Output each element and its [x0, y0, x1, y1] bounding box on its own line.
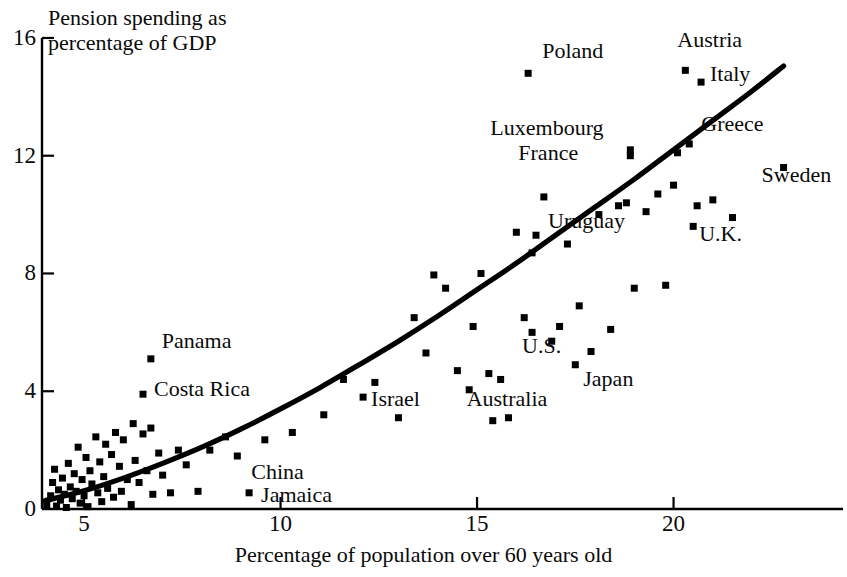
- y-tick-label: 8: [0, 261, 36, 284]
- data-point: [505, 414, 512, 421]
- data-point: [395, 414, 402, 421]
- data-point: [102, 441, 109, 448]
- data-point-labeled: [572, 361, 579, 368]
- data-point: [79, 476, 86, 483]
- data-point-labeled: [525, 70, 532, 77]
- y-tick-label: 0: [0, 497, 36, 520]
- data-point-labeled: [627, 152, 634, 159]
- data-point: [489, 417, 496, 424]
- data-point: [513, 229, 520, 236]
- y-axis-title-line-1: Pension spending as: [48, 6, 226, 31]
- data-point: [485, 370, 492, 377]
- data-point: [94, 489, 101, 496]
- data-point: [729, 214, 736, 221]
- x-tick-label: 15: [447, 512, 507, 535]
- data-point: [631, 285, 638, 292]
- point-label-u-s: U.S.: [522, 335, 561, 357]
- point-label-greece: Greece: [701, 113, 763, 135]
- data-point: [623, 199, 630, 206]
- y-axis-title-line-2: percentage of GDP: [48, 31, 226, 56]
- x-axis-title: Percentage of population over 60 years o…: [0, 543, 847, 568]
- data-point: [63, 504, 70, 511]
- data-point: [84, 503, 91, 510]
- data-point: [206, 447, 213, 454]
- data-point: [670, 182, 677, 189]
- point-label-france: France: [518, 142, 578, 164]
- data-points-group: [43, 67, 787, 511]
- data-point: [564, 241, 571, 248]
- point-label-australia: Australia: [467, 388, 548, 410]
- point-label-jamaica: Jamaica: [261, 484, 332, 506]
- data-point: [607, 326, 614, 333]
- data-point: [110, 494, 117, 501]
- point-label-china: China: [251, 461, 304, 483]
- point-label-uruguay: Uruguay: [548, 210, 625, 232]
- data-point: [654, 190, 661, 197]
- data-point: [98, 498, 105, 505]
- data-point: [371, 379, 378, 386]
- point-label-italy: Italy: [710, 63, 750, 85]
- data-point: [175, 447, 182, 454]
- data-point: [59, 475, 66, 482]
- y-tick-label: 4: [0, 379, 36, 402]
- x-tick-label: 5: [54, 512, 114, 535]
- data-point: [540, 193, 547, 200]
- point-label-poland: Poland: [542, 40, 603, 62]
- data-point: [128, 501, 135, 508]
- data-point-labeled: [147, 355, 154, 362]
- data-point: [65, 460, 72, 467]
- data-point: [77, 500, 84, 507]
- data-point-labeled: [682, 67, 689, 74]
- data-point: [183, 461, 190, 468]
- axes-group: [42, 38, 843, 509]
- y-axis-title: Pension spending aspercentage of GDP: [48, 6, 226, 55]
- x-axis-ticks: [84, 497, 674, 509]
- data-point: [112, 429, 119, 436]
- data-point-labeled: [360, 394, 367, 401]
- data-point: [422, 349, 429, 356]
- point-label-austria: Austria: [677, 29, 742, 51]
- data-point: [130, 420, 137, 427]
- data-point: [140, 430, 147, 437]
- data-point: [442, 285, 449, 292]
- data-point-labeled: [246, 489, 253, 496]
- point-label-luxembourg: Luxembourg: [490, 117, 603, 139]
- point-label-sweden: Sweden: [762, 164, 832, 186]
- data-point: [289, 429, 296, 436]
- data-point: [470, 323, 477, 330]
- data-point-labeled: [234, 453, 241, 460]
- data-point: [195, 488, 202, 495]
- data-point: [261, 436, 268, 443]
- data-point-labeled: [690, 223, 697, 230]
- data-point: [411, 314, 418, 321]
- data-point: [75, 444, 82, 451]
- data-point-labeled: [140, 391, 147, 398]
- data-point: [477, 270, 484, 277]
- y-tick-label: 12: [0, 144, 36, 167]
- data-point: [430, 271, 437, 278]
- y-axis-ticks: [42, 38, 54, 391]
- x-tick-label: 10: [251, 512, 311, 535]
- data-point: [155, 450, 162, 457]
- plot-canvas: [0, 0, 847, 577]
- y-tick-label: 16: [0, 26, 36, 49]
- pension-spending-scatter-chart: Pension spending aspercentage of GDP Per…: [0, 0, 847, 577]
- trend-line: [45, 66, 784, 501]
- data-point: [136, 479, 143, 486]
- data-point: [132, 457, 139, 464]
- data-point: [51, 466, 58, 473]
- point-label-japan: Japan: [583, 368, 633, 390]
- data-point: [521, 314, 528, 321]
- data-point: [100, 473, 107, 480]
- data-point: [147, 425, 154, 432]
- data-point-labeled: [497, 376, 504, 383]
- x-tick-label: 20: [644, 512, 704, 535]
- point-label-costa-rica: Costa Rica: [154, 378, 250, 400]
- data-point: [108, 451, 115, 458]
- data-point: [576, 302, 583, 309]
- data-point: [49, 479, 56, 486]
- data-point: [83, 454, 90, 461]
- data-point: [149, 491, 156, 498]
- data-point-labeled: [698, 79, 705, 86]
- data-point: [454, 367, 461, 374]
